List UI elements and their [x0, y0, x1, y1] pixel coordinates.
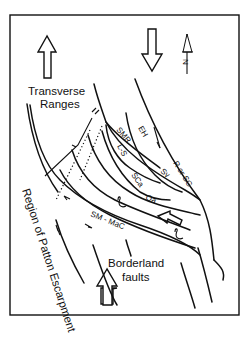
label-region-patton: Region of Patton Escarpment	[20, 187, 78, 334]
fault-sca	[102, 131, 170, 200]
label-sca: SCa	[129, 171, 146, 189]
label-borderland: Borderland	[108, 257, 164, 269]
label-sy: Sy	[159, 167, 172, 180]
fault-r-or-sg	[135, 79, 214, 260]
compression-arrow-down-top	[142, 29, 162, 71]
compression-arrow-up-left	[38, 36, 56, 78]
label-eh: EH	[136, 125, 149, 139]
fault-smr	[94, 84, 160, 168]
dotted-lines	[56, 126, 102, 200]
transverse-ranges-leader	[45, 118, 92, 176]
label-ranges: Ranges	[40, 98, 80, 110]
fault-map-diagram: N	[0, 0, 249, 345]
north-label: N	[181, 59, 190, 65]
label-transverse: Transverse	[28, 85, 85, 97]
label-faults: faults	[122, 271, 150, 283]
north-arrow-icon: N	[181, 34, 193, 74]
